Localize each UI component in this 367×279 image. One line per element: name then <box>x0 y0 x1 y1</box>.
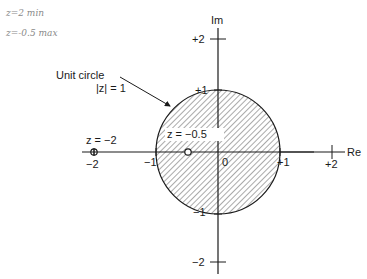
tick-label-re-p1: +1 <box>277 156 290 168</box>
unit-circle-arrow <box>120 77 170 106</box>
point-z-minus-half <box>185 149 191 155</box>
unit-circle-label: Unit circle <box>56 69 104 81</box>
tick-label-im-m1: −1 <box>193 206 206 218</box>
z-plane-diagram: z=2 min z=-0.5 max Re Im −2 −1 0 +1 +2 +… <box>0 0 367 279</box>
imag-axis-label: Im <box>211 14 223 26</box>
tick-label-origin: 0 <box>222 156 228 168</box>
handwritten-note-1: z=2 min <box>5 8 44 18</box>
handwritten-note-2: z=-0.5 max <box>5 28 57 38</box>
tick-label-im-m2: −2 <box>192 256 205 268</box>
unit-circle-equation: |z| = 1 <box>96 82 126 94</box>
tick-label-re-p2: +2 <box>325 158 338 170</box>
point-z-minus-2-label: z = −2 <box>86 134 117 146</box>
tick-label-re-m1: −1 <box>144 156 157 168</box>
real-axis-label: Re <box>347 146 361 158</box>
tick-label-im-p1: +1 <box>195 84 208 96</box>
point-z-minus-half-label: z = −0.5 <box>167 128 207 140</box>
tick-label-re-m2: −2 <box>86 158 99 170</box>
tick-label-im-p2: +2 <box>192 33 205 45</box>
